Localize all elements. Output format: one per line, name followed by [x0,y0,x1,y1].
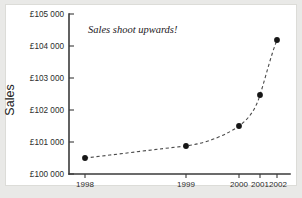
y-tick-label-100000: £100 000 [30,170,65,179]
y-tick-label-103000: £103 000 [30,74,65,83]
sales-series-line [85,40,277,158]
y-tick-labels: £100 000 £101 000 £102 000 £103 000 £104… [30,10,65,179]
data-point-1999 [183,143,189,149]
chart-screenshot: £100 000 £101 000 £102 000 £103 000 £104… [0,0,302,198]
chart-annotation: Sales shoot upwards! [88,24,178,35]
x-tick-labels: 1998 1999 2000 2001 2002 [76,180,287,189]
sales-line-chart: £100 000 £101 000 £102 000 £103 000 £104… [0,0,302,198]
sales-data-points [82,37,280,161]
y-tick-label-101000: £101 000 [30,138,65,147]
x-tick-label-2001: 2001 [251,180,269,189]
x-tick-label-1999: 1999 [177,180,195,189]
y-axis-title: Sales [3,84,17,115]
x-tick-label-1998: 1998 [76,180,94,189]
data-point-1998 [82,155,88,161]
data-point-2000 [236,123,242,129]
data-point-2001 [257,92,263,98]
x-tick-label-2000: 2000 [230,180,248,189]
y-tick-label-104000: £104 000 [30,42,65,51]
x-tick-label-2002: 2002 [269,180,287,189]
data-point-2002 [274,37,280,43]
y-tick-label-102000: £102 000 [30,106,65,115]
y-tick-label-105000: £105 000 [30,10,65,19]
